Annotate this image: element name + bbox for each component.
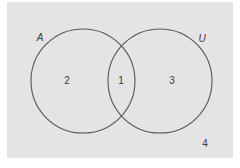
region-a-only-label: 2 [64,76,70,86]
set-u-label: U [198,34,205,44]
set-a-label: A [37,33,44,43]
region-intersection-label: 1 [118,76,124,86]
region-u-only-label: 3 [169,76,175,86]
region-outside-label: 4 [202,139,208,149]
